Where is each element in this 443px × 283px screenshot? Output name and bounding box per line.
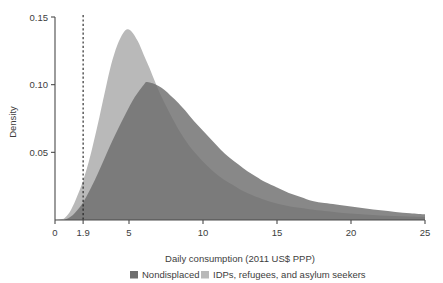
x-tick-label-5: 20	[346, 227, 357, 238]
chart-legend: Nondisplaced IDPs, refugees, and asylum …	[130, 269, 366, 280]
density-chart-figure: 0.050.100.15 01.9510152025 Density Daily…	[0, 0, 443, 283]
y-axis-ticks: 0.050.100.15	[30, 12, 56, 158]
x-tick-label-4: 15	[272, 227, 283, 238]
legend-label-nondisplaced: Nondisplaced	[142, 269, 200, 280]
chart-areas-group	[55, 29, 425, 220]
x-tick-label-1: 1.9	[77, 227, 90, 238]
y-tick-label-2: 0.15	[30, 12, 49, 23]
legend-swatch-nondisplaced	[130, 271, 138, 279]
y-axis-title: Density	[7, 106, 18, 138]
x-tick-label-2: 5	[126, 227, 131, 238]
x-tick-label-3: 10	[198, 227, 209, 238]
y-tick-label-1: 0.10	[30, 79, 49, 90]
x-tick-label-6: 25	[420, 227, 431, 238]
y-tick-label-0: 0.05	[30, 147, 49, 158]
density-chart-svg: 0.050.100.15 01.9510152025 Density Daily…	[0, 0, 443, 283]
x-axis-ticks: 01.9510152025	[52, 220, 430, 238]
legend-swatch-displaced	[201, 271, 209, 279]
x-tick-label-0: 0	[52, 227, 57, 238]
legend-label-displaced: IDPs, refugees, and asylum seekers	[213, 269, 366, 280]
x-axis-title: Daily consumption (2011 US$ PPP)	[165, 253, 315, 264]
